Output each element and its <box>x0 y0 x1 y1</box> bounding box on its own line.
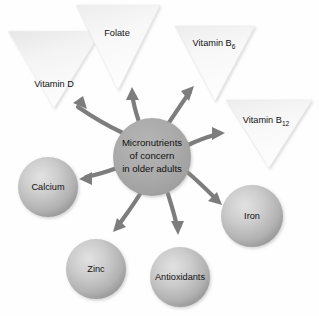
micronutrients-diagram: Vitamin D Folate Vitamin B6 Vitamin B12 <box>0 0 319 316</box>
zinc-label: Zinc <box>87 264 105 274</box>
vitamin-b6-label: Vitamin B6 <box>193 38 236 49</box>
center-label-line3: in older adults <box>122 163 182 174</box>
diagram-canvas: Vitamin D Folate Vitamin B6 Vitamin B12 <box>0 0 319 316</box>
node-zinc[interactable]: Zinc <box>66 239 126 299</box>
node-calcium[interactable]: Calcium <box>18 157 78 217</box>
node-iron[interactable]: Iron <box>221 185 283 247</box>
node-center[interactable]: Micronutrients of concern in older adult… <box>113 118 191 196</box>
iron-label: Iron <box>244 211 260 221</box>
folate-label: Folate <box>104 28 130 38</box>
antioxidants-label: Antioxidants <box>155 272 205 282</box>
node-antioxidants[interactable]: Antioxidants <box>150 247 210 307</box>
calcium-label: Calcium <box>31 182 65 192</box>
center-label-line1: Micronutrients <box>122 137 182 148</box>
vitamin-d-label: Vitamin D <box>34 79 74 89</box>
center-label-line2: of concern <box>130 150 175 161</box>
